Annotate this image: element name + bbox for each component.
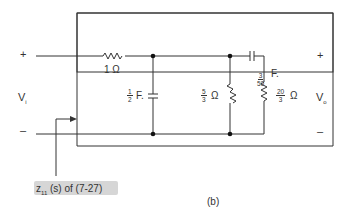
r2-fraction: 53 — [201, 88, 207, 103]
input-plus: + — [20, 48, 26, 60]
r1-label: 1 Ω — [104, 64, 120, 75]
r3-fraction: 203 — [276, 88, 285, 103]
output-minus: – — [317, 125, 323, 137]
c2-unit: F. — [271, 68, 279, 79]
input-minus: – — [20, 124, 26, 136]
output-plus: + — [317, 49, 323, 61]
annotation-leader — [56, 119, 74, 176]
c1-unit: F. — [136, 90, 144, 101]
node-dot — [151, 132, 156, 137]
resistor-1-ohm — [103, 53, 122, 59]
input-voltage-label: Vi — [18, 91, 27, 105]
arrow-head-icon — [70, 116, 77, 122]
node-dot — [228, 132, 233, 137]
c1-fraction: 12 — [127, 88, 133, 103]
node-dot — [151, 54, 156, 59]
annotation-text: z11 (s) of (7-27) — [36, 183, 102, 196]
capacitor-1-2 — [148, 94, 158, 98]
figure-caption: (b) — [207, 196, 219, 207]
capacitor-3-50 — [250, 51, 254, 61]
r3-unit: Ω — [290, 90, 297, 101]
network-box — [77, 13, 333, 146]
r2-unit: Ω — [211, 90, 218, 101]
output-voltage-label: Vo — [316, 91, 327, 105]
resistor-5-3 — [227, 84, 236, 103]
node-dot — [228, 54, 233, 59]
c2-fraction: 350 — [257, 72, 264, 87]
